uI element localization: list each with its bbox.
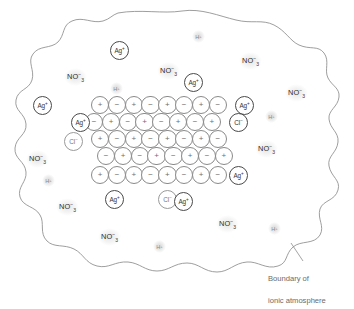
ag-plus-upper-mid: Ag+: [184, 73, 203, 92]
ion-charge: +: [196, 78, 199, 83]
charge-sign: −: [115, 101, 120, 109]
ag-plus-bottom-left: Ag+: [105, 190, 124, 209]
charge-sign: +: [176, 118, 181, 126]
charge-sign: −: [148, 171, 153, 179]
lattice-cation-site: +: [125, 130, 143, 148]
lattice-cation-site: +: [135, 113, 153, 131]
proton-charge: +: [49, 178, 51, 183]
ion-label: Cl−: [69, 137, 77, 145]
lattice-cation-site: +: [158, 96, 176, 114]
lattice-anion-site: −: [108, 166, 126, 184]
charge-sign: +: [109, 118, 114, 126]
charge-sign: −: [182, 101, 187, 109]
lattice-cation-site: +: [192, 96, 210, 114]
lattice-row-4: −+−+−+−+: [97, 147, 231, 165]
ag-plus-row5-end: Ag+: [229, 166, 248, 185]
charge-sign: +: [131, 135, 136, 143]
lattice-anion-site: −: [97, 147, 115, 165]
charge-sign: +: [165, 101, 170, 109]
lattice-anion-site: −: [186, 113, 204, 131]
lattice-cation-site: +: [203, 113, 221, 131]
lattice-cation-site: +: [158, 130, 176, 148]
no3-top-mid: NO−3: [157, 62, 180, 80]
nitrate-subscript: 3: [81, 77, 84, 83]
ion-label: Cl−: [234, 118, 242, 126]
ion-label: Ag+: [188, 78, 198, 86]
proton-charge: +: [275, 226, 277, 231]
charge-sign: +: [142, 118, 147, 126]
h-plus-upper-left: H+: [110, 82, 123, 95]
ion-charge: +: [186, 197, 189, 202]
lattice-anion-site: −: [164, 147, 182, 165]
lattice-cation-site: +: [125, 166, 143, 184]
charge-sign: −: [193, 118, 198, 126]
lattice-cation-site: +: [192, 130, 210, 148]
lattice-row-2: −+−+−+−+: [85, 113, 219, 131]
ion-charge: +: [241, 171, 244, 176]
ion-charge: −: [75, 137, 78, 142]
lattice-row-1: +−+−+−+−: [91, 96, 225, 114]
charge-sign: −: [215, 135, 220, 143]
lattice-row-3: +−+−+−+−: [91, 130, 225, 148]
cl-minus-row2-end: Cl−: [229, 113, 248, 132]
ion-label: Ag+: [75, 118, 85, 126]
caption-line-2: ionic atmosphere: [268, 295, 326, 306]
nitrate-subscript: 3: [272, 149, 275, 155]
charge-sign: −: [171, 152, 176, 160]
proton-charge: +: [272, 114, 274, 119]
lattice-cation-site: +: [215, 147, 233, 165]
ion-charge: −: [240, 118, 243, 123]
boundary-caption: Boundary of ionic atmosphere: [268, 262, 326, 309]
ion-label: Cl−: [163, 195, 171, 203]
charge-sign: −: [159, 118, 164, 126]
lattice-cation-site: +: [192, 166, 210, 184]
charge-sign: −: [215, 171, 220, 179]
charge-sign: +: [98, 171, 103, 179]
ion-charge: +: [45, 101, 48, 106]
proton-charge: +: [117, 86, 119, 91]
ion-label: Ag+: [37, 101, 47, 109]
no3-left-mid: NO−3: [26, 150, 49, 168]
charge-sign: +: [98, 135, 103, 143]
lattice-anion-site: −: [108, 130, 126, 148]
charge-sign: +: [154, 152, 159, 160]
lattice-anion-site: −: [175, 166, 193, 184]
charge-sign: −: [137, 152, 142, 160]
ion-charge: −: [169, 195, 172, 200]
charge-sign: −: [215, 101, 220, 109]
lattice-anion-site: −: [119, 113, 137, 131]
nitrate-subscript: 3: [43, 159, 46, 165]
charge-sign: +: [165, 171, 170, 179]
charge-sign: −: [104, 152, 109, 160]
no3-left-lower: NO−3: [56, 198, 79, 216]
lattice-cation-site: +: [181, 147, 199, 165]
nitrate-subscript: 3: [174, 71, 177, 77]
ion-label: Ag+: [239, 101, 249, 109]
charge-sign: +: [98, 101, 103, 109]
ion-charge: +: [117, 195, 120, 200]
nitrate-subscript: 3: [256, 61, 259, 67]
lattice-anion-site: −: [198, 147, 216, 165]
h-plus-top: H+: [192, 30, 205, 43]
charge-sign: −: [182, 171, 187, 179]
lattice-cation-site: +: [91, 96, 109, 114]
ag-plus-left: Ag+: [33, 96, 52, 115]
h-plus-right: H+: [265, 110, 278, 123]
ag-plus-top: Ag+: [110, 41, 129, 60]
lattice-anion-site: −: [175, 130, 193, 148]
charge-sign: −: [115, 135, 120, 143]
proton-charge: +: [199, 34, 201, 39]
nitrate-subscript: 3: [115, 237, 118, 243]
h-plus-bottom-right: H+: [268, 222, 281, 235]
lattice-anion-site: −: [209, 130, 227, 148]
lattice-anion-site: −: [141, 130, 159, 148]
lattice-cation-site: +: [158, 166, 176, 184]
ion-charge: +: [83, 118, 86, 123]
charge-sign: −: [125, 118, 130, 126]
no3-bottom-right: NO−3: [216, 215, 239, 233]
lattice-anion-site: −: [141, 96, 159, 114]
nitrate-subscript: 3: [302, 93, 305, 99]
ion-label: Ag+: [233, 171, 243, 179]
